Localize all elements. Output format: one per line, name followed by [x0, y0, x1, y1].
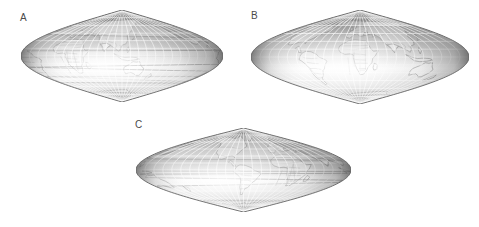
panel-c-globe	[136, 128, 351, 212]
panel-a-globe	[21, 10, 223, 102]
figure-canvas: A B C	[0, 0, 479, 227]
panel-b-globe	[251, 10, 469, 104]
globe-projection-c	[136, 128, 351, 212]
globe-projection-b	[251, 10, 469, 104]
globe-projection-a	[21, 10, 223, 102]
